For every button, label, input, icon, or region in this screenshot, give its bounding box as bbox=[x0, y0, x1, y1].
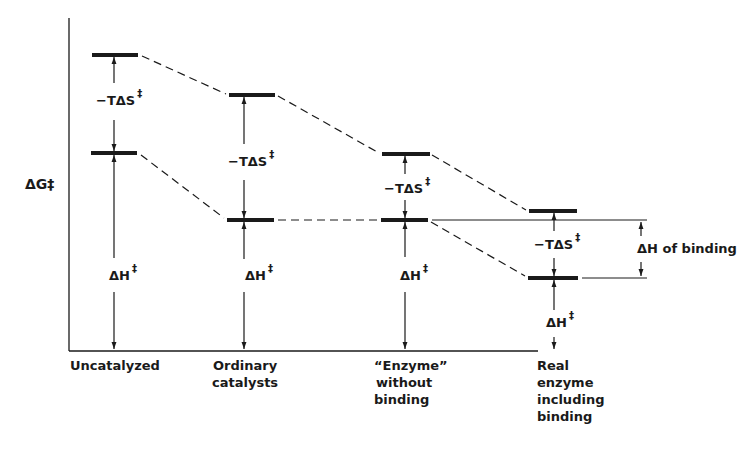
dh-label-ordinary: ΔH‡ bbox=[245, 268, 273, 285]
binding-label: ΔH of binding bbox=[637, 241, 737, 257]
dh-label-real-enzyme: ΔH‡ bbox=[546, 315, 574, 332]
dh-label-uncatalyzed: ΔH‡ bbox=[109, 268, 137, 285]
level-bars bbox=[91, 55, 578, 278]
category-uncatalyzed: Uncatalyzed bbox=[70, 357, 160, 374]
category-enzyme-without-binding: “Enzyme” without binding bbox=[374, 357, 448, 408]
category-real-enzyme: Real enzyme including binding bbox=[537, 357, 604, 425]
tds-label-uncatalyzed: −TΔS‡ bbox=[96, 93, 142, 110]
dh-label-enzyme: ΔH‡ bbox=[400, 268, 428, 285]
tds-label-enzyme: −TΔS‡ bbox=[384, 181, 430, 198]
dashed-connectors bbox=[141, 56, 526, 276]
arrows bbox=[114, 57, 641, 349]
tds-label-ordinary: −TΔS‡ bbox=[228, 154, 274, 171]
category-ordinary-catalysts: Ordinary catalysts bbox=[212, 357, 278, 391]
axes bbox=[69, 18, 538, 351]
y-axis-label: ΔG‡ bbox=[25, 176, 54, 192]
tds-label-real-enzyme: −TΔS‡ bbox=[534, 237, 580, 254]
